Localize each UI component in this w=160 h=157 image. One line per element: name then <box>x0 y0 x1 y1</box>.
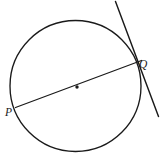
geometry-figure: P Q <box>0 0 160 157</box>
figure-canvas <box>0 0 160 157</box>
point-label-q: Q <box>139 59 147 71</box>
circle-center-dot <box>75 85 78 88</box>
diameter-pq-line <box>16 61 142 108</box>
tangent-at-q-line <box>116 2 159 117</box>
point-label-p: P <box>5 107 12 119</box>
circle-outline <box>10 21 141 152</box>
